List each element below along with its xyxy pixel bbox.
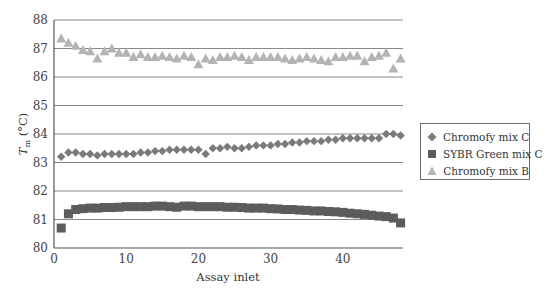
triangle-point (273, 52, 283, 61)
triangle-point (338, 52, 348, 61)
diamond-point (180, 145, 188, 153)
square-point (396, 218, 405, 227)
diamond-point (122, 150, 130, 158)
diamond-point (209, 144, 217, 152)
y-axis-ticks: 808182838485868788 (33, 13, 49, 255)
y-tick-label: 85 (33, 99, 48, 113)
triangle-point (316, 55, 326, 64)
diamond-point (201, 150, 209, 158)
triangle-point (179, 51, 189, 60)
diamond-point (245, 143, 253, 151)
diamond-point (93, 151, 101, 159)
triangle-point (222, 52, 232, 61)
x-axis-ticks: 010203040 (50, 252, 350, 266)
triangle-point (237, 52, 247, 61)
triangle-point (287, 55, 297, 64)
diamond-marker-icon (427, 132, 437, 142)
diamond-point (115, 150, 123, 158)
triangle-point (186, 52, 196, 61)
diamond-point (216, 144, 224, 152)
x-tick-label: 30 (263, 252, 278, 266)
diamond-point (57, 153, 65, 161)
y-tick-label: 83 (33, 156, 48, 170)
triangle-point (157, 51, 167, 60)
y-tick-label: 80 (33, 241, 48, 255)
square-marker-icon (427, 149, 437, 159)
diamond-point (223, 143, 231, 151)
y-tick-label: 86 (33, 70, 48, 84)
diamond-point (64, 148, 72, 156)
triangle-point (367, 52, 377, 61)
triangle-point (295, 53, 305, 62)
legend-label: Chromofy mix C (443, 131, 529, 143)
diamond-point (108, 150, 116, 158)
diamond-point (396, 131, 404, 139)
diamond-point (310, 137, 318, 145)
triangle-marker-icon (427, 166, 437, 176)
y-tick-label: 88 (33, 13, 48, 27)
triangle-point (201, 53, 211, 62)
triangle-point (280, 53, 290, 62)
diamond-point (187, 145, 195, 153)
diamond-point (317, 137, 325, 145)
diamond-point (281, 140, 289, 148)
triangle-point (136, 49, 146, 58)
diamond-point (151, 147, 159, 155)
legend-label: SYBR Green mix C (443, 148, 543, 160)
triangle-point (56, 34, 66, 43)
diamond-point (79, 150, 87, 158)
diamond-point (303, 137, 311, 145)
triangle-point (85, 46, 95, 55)
diamond-point (266, 141, 274, 149)
diamond-point (129, 150, 137, 158)
diamond-point (389, 130, 397, 138)
diamond-point (288, 138, 296, 146)
diamond-point (173, 145, 181, 153)
diamond-point (144, 148, 152, 156)
triangle-point (352, 51, 362, 60)
x-tick-label: 10 (119, 252, 134, 266)
diamond-point (194, 145, 202, 153)
diamond-point (295, 138, 303, 146)
x-tick-label: 20 (191, 252, 206, 266)
y-axis-title-unit: (°C) (16, 113, 30, 140)
diamond-point (100, 150, 108, 158)
square-point (57, 224, 66, 233)
diamond-point (331, 136, 339, 144)
diamond-point (368, 134, 376, 142)
diamond-point (259, 141, 267, 149)
diamond-point (339, 134, 347, 142)
x-tick-label: 0 (50, 252, 58, 266)
x-axis-title: Assay inlet (195, 270, 260, 284)
y-tick-label: 82 (33, 184, 48, 198)
triangle-point (121, 48, 131, 57)
diamond-point (238, 144, 246, 152)
diamond-point (346, 134, 354, 142)
diamond-point (375, 134, 383, 142)
legend-label: Chromofy mix B (443, 165, 529, 177)
data-points (56, 34, 405, 233)
diamond-point (360, 134, 368, 142)
diamond-point (158, 147, 166, 155)
legend-item-chromofy-mix-c: Chromofy mix C (427, 128, 529, 145)
diamond-point (230, 144, 238, 152)
triangle-point (381, 48, 391, 57)
diamond-point (136, 148, 144, 156)
y-axis-title: Tm (°C) (16, 113, 32, 155)
triangle-point (388, 63, 398, 72)
y-tick-label: 84 (33, 127, 49, 141)
y-tick-label: 87 (33, 42, 48, 56)
diamond-point (353, 134, 361, 142)
triangle-point (309, 53, 319, 62)
legend-item-chromofy-mix-b: Chromofy mix B (427, 162, 529, 179)
diamond-point (274, 140, 282, 148)
diamond-point (165, 145, 173, 153)
diamond-point (71, 148, 79, 156)
y-tick-label: 81 (33, 213, 48, 227)
triangle-point (150, 52, 160, 61)
legend: Chromofy mix C SYBR Green mix C Chromofy… (420, 123, 530, 180)
triangle-point (396, 53, 406, 62)
legend-item-sybr-green-mix-c: SYBR Green mix C (427, 145, 529, 162)
diamond-point (324, 136, 332, 144)
triangle-point (302, 52, 312, 61)
